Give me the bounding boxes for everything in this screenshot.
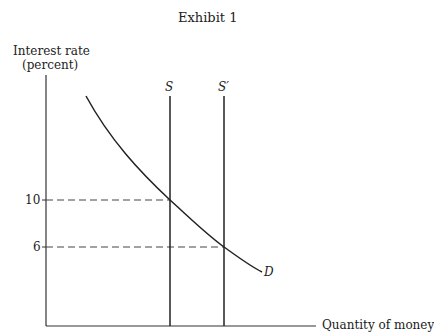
y-tick-6: 6 xyxy=(33,240,41,254)
supply-label-S-prime: S′ xyxy=(218,80,229,94)
demand-label-D: D xyxy=(264,265,274,279)
supply-label-S: S xyxy=(165,80,173,94)
y-tick-10: 10 xyxy=(25,193,40,207)
demand-curve-D xyxy=(86,96,262,272)
x-axis-label: Quantity of money xyxy=(322,318,434,332)
